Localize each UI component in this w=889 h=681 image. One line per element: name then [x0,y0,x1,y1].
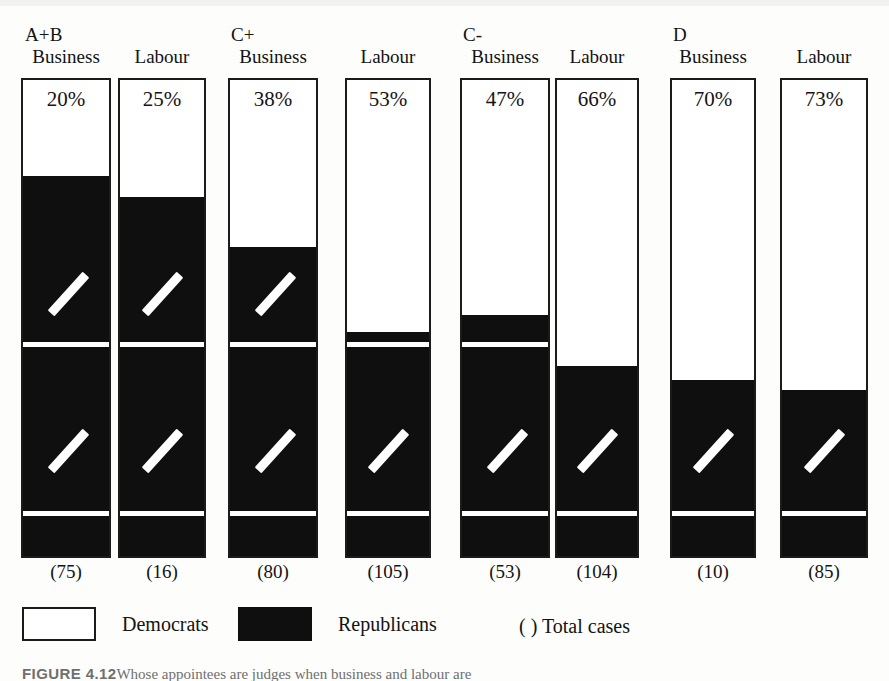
series-label: Labour [118,46,206,67]
legend-note-total-cases: ( ) Total cases [519,615,630,637]
series-label: Labour [555,46,639,67]
value-label: 70% [672,87,754,111]
divider-rule-lower [557,511,637,516]
divider-rule-lower [230,511,316,516]
series-label: Business [21,46,111,67]
value-label: 53% [347,87,429,111]
divider-rule-lower [347,511,429,516]
segment-republicans [672,380,754,556]
bar-cminus-labour[interactable]: 66% [555,78,639,558]
bar-cplus-business[interactable]: 38% [228,78,318,558]
group-label-d: D [673,24,687,45]
value-label: 47% [462,87,548,111]
figure-caption-text: Whose appointees are judges when busines… [116,666,471,681]
figure-caption-number: FIGURE 4.12 [22,665,116,681]
legend-item-democrats: Democrats [22,604,209,644]
group-label-c-minus: C- [463,24,482,45]
segment-democrats [782,80,866,390]
value-label: 38% [230,87,316,111]
group-label-a-b: A+B [25,24,62,45]
total-cases-label: (10) [670,561,756,583]
total-cases-label: (104) [555,561,639,583]
segment-republicans [120,197,204,556]
segment-republicans [557,366,637,556]
total-cases-label: (16) [118,561,206,583]
scan-edge [0,0,889,6]
value-label: 25% [120,87,204,111]
series-label: Business [460,46,550,67]
bar-d-business[interactable]: 70% [670,78,756,558]
series-label: Labour [780,46,868,67]
divider-rule-lower [672,511,754,516]
segment-republicans [23,176,109,556]
segment-republicans [462,315,548,556]
divider-rule-lower [782,511,866,516]
divider-rule-middle [120,342,204,347]
divider-rule-lower [462,511,548,516]
series-label: Business [670,46,756,67]
total-cases-label: (105) [345,561,431,583]
legend-item-republicans: Republicans [238,604,437,644]
legend-label-democrats: Democrats [122,613,209,635]
legend: Democrats Republicans ( ) Total cases [0,604,889,648]
divider-rule-lower [120,511,204,516]
bar-d-labour[interactable]: 73% [780,78,868,558]
value-label: 66% [557,87,637,111]
total-cases-label: (53) [460,561,550,583]
divider-rule-middle [462,342,548,347]
segment-republicans [782,390,866,556]
figure-caption: FIGURE 4.12Whose appointees are judges w… [22,664,882,681]
figure-root: A+B C+ C- D Business 20% (75) Labour 25%… [0,0,889,681]
total-cases-label: (85) [780,561,868,583]
legend-swatch-republicans [238,607,312,641]
value-label: 73% [782,87,866,111]
series-label: Business [228,46,318,67]
divider-rule-middle [23,342,109,347]
bar-ab-business[interactable]: 20% [21,78,111,558]
divider-rule-middle [230,342,316,347]
segment-democrats [557,80,637,366]
divider-rule-lower [23,511,109,516]
legend-label-republicans: Republicans [338,613,437,635]
group-label-c-plus: C+ [231,24,255,45]
divider-rule-middle [347,342,429,347]
series-label: Labour [345,46,431,67]
value-label: 20% [23,87,109,111]
bar-cplus-labour[interactable]: 53% [345,78,431,558]
segment-democrats [672,80,754,380]
total-cases-label: (80) [228,561,318,583]
legend-swatch-democrats [22,607,96,641]
bar-cminus-business[interactable]: 47% [460,78,550,558]
bar-ab-labour[interactable]: 25% [118,78,206,558]
total-cases-label: (75) [21,561,111,583]
segment-democrats [347,80,429,332]
segment-democrats [462,80,548,315]
